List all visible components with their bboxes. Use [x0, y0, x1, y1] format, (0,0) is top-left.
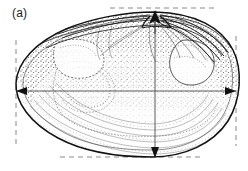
shell-interior	[16, 12, 240, 160]
figure-panel: (a)	[0, 0, 248, 171]
shell-illustration	[0, 0, 248, 171]
